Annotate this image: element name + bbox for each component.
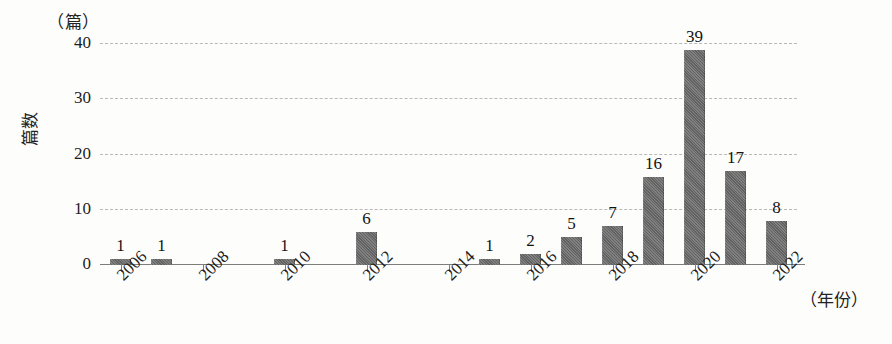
y-axis-tick-label: 0 [83, 254, 92, 274]
bar-value-label: 1 [280, 236, 289, 256]
x-axis-tick-labels: 200620082010201220142016201820202022 [100, 265, 820, 325]
bar[interactable] [684, 50, 705, 265]
bar-group: 1 [479, 22, 500, 265]
bar-group: 2 [520, 22, 541, 265]
bar-group [192, 22, 213, 265]
bar[interactable] [643, 177, 664, 265]
bar-group [315, 22, 336, 265]
bar-value-label: 2 [526, 231, 535, 251]
bar-value-label: 1 [116, 236, 125, 256]
y-axis-unit-label: （篇） [47, 8, 100, 33]
bar[interactable] [725, 171, 746, 265]
bars-layer: 111612571639178 [100, 22, 797, 265]
bar-group [397, 22, 418, 265]
plot-area: 010203040 111612571639178 [100, 22, 797, 265]
bar-value-label: 16 [645, 154, 662, 174]
bar-group: 7 [602, 22, 623, 265]
bar-group: 16 [643, 22, 664, 265]
bar-value-label: 1 [485, 236, 494, 256]
bar-group: 1 [110, 22, 131, 265]
bar-group: 8 [766, 22, 787, 265]
bar-value-label: 17 [727, 148, 744, 168]
bar-group: 5 [561, 22, 582, 265]
bar-value-label: 6 [362, 209, 371, 229]
bar-group [233, 22, 254, 265]
bar-group: 1 [151, 22, 172, 265]
y-axis-tick-label: 10 [74, 199, 91, 219]
y-axis-tick-label: 20 [74, 144, 91, 164]
bar-value-label: 39 [686, 27, 703, 47]
bar-group: 1 [274, 22, 295, 265]
bar-group [438, 22, 459, 265]
x-axis-title: （年份） [800, 286, 868, 311]
bar[interactable] [561, 237, 582, 265]
y-axis-tick-label: 40 [74, 33, 91, 53]
bar-value-label: 8 [772, 198, 781, 218]
bar-value-label: 5 [567, 214, 576, 234]
bar-value-label: 7 [608, 203, 617, 223]
bar-value-label: 1 [157, 236, 166, 256]
y-axis-title: 篇数 [22, 66, 39, 146]
y-axis-tick-label: 30 [74, 89, 91, 109]
bar-group: 17 [725, 22, 746, 265]
bar-chart-figure: （篇） 篇数 010203040 111612571639178 2006200… [0, 0, 892, 344]
bar-group: 39 [684, 22, 705, 265]
bar-group: 6 [356, 22, 377, 265]
